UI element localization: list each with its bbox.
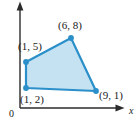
vertex-label-9-1: (9, 1)	[99, 90, 123, 101]
vertex-label-6-8: (6, 8)	[58, 20, 82, 31]
origin-label: 0	[9, 109, 14, 119]
vertex-label-1-2: (1, 2)	[20, 94, 44, 105]
vertex-label-1-5: (1, 5)	[18, 41, 42, 52]
vertex-point-6-8	[68, 35, 74, 41]
vertex-point-1-2	[23, 85, 29, 91]
coordinate-plane-figure: (1, 5) (6, 8) (1, 2) (9, 1) x 0	[0, 0, 139, 123]
vertex-point-1-5	[23, 59, 29, 65]
x-axis-label: x	[129, 106, 133, 116]
x-axis-arrowhead	[116, 105, 125, 112]
y-axis-arrowhead	[17, 2, 24, 11]
